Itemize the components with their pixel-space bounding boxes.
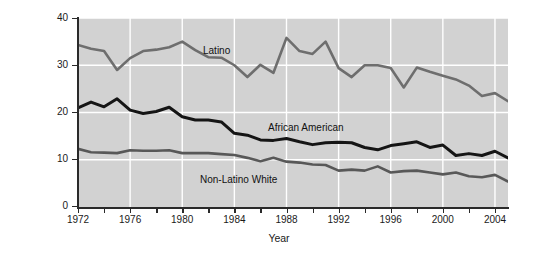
x-tick-mark	[234, 208, 235, 213]
x-tick-mark	[391, 208, 392, 213]
x-tick-label-1972: 1972	[58, 214, 98, 225]
x-tick-mark	[469, 208, 470, 213]
x-tick-mark	[417, 208, 418, 213]
x-axis-title-text: Year	[268, 232, 289, 244]
x-tick-mark	[365, 208, 366, 213]
x-tick-mark	[287, 208, 288, 213]
x-tick-mark	[130, 208, 131, 213]
x-tick-label-2000: 2000	[423, 214, 463, 225]
series-canvas	[78, 18, 508, 207]
x-tick-mark	[208, 208, 209, 213]
y-tick-label-10: 10	[46, 153, 68, 164]
x-tick-mark	[339, 208, 340, 213]
x-tick-label-1988: 1988	[267, 214, 307, 225]
y-axis-line	[77, 17, 79, 208]
x-tick-label-1976: 1976	[110, 214, 150, 225]
x-tick-mark	[495, 208, 496, 213]
x-tick-mark	[78, 208, 79, 213]
x-tick-label-1996: 1996	[371, 214, 411, 225]
x-tick-label-2004: 2004	[475, 214, 515, 225]
x-tick-mark	[182, 208, 183, 213]
x-tick-mark	[443, 208, 444, 213]
y-tick-label-20: 20	[46, 106, 68, 117]
x-tick-mark	[156, 208, 157, 213]
chart-figure: Percentage of 16- to 24-year-olds who ha…	[0, 0, 534, 254]
series-annotation-non-latino-white: Non-Latino White	[200, 174, 277, 185]
plot-area: Latino African American Non-Latino White	[78, 18, 508, 207]
x-tick-label-1980: 1980	[162, 214, 202, 225]
series-annotation-latino: Latino	[203, 45, 230, 56]
x-tick-mark	[260, 208, 261, 213]
x-axis-line	[77, 207, 509, 209]
x-tick-mark	[104, 208, 105, 213]
x-tick-label-1984: 1984	[214, 214, 254, 225]
y-tick-label-40: 40	[46, 12, 68, 23]
x-tick-label-1992: 1992	[319, 214, 359, 225]
y-tick-label-30: 30	[46, 59, 68, 70]
series-annotation-african-american: African American	[268, 122, 344, 133]
x-axis-title: Year	[0, 232, 534, 244]
y-tick-label-0: 0	[46, 200, 68, 211]
x-tick-mark	[313, 208, 314, 213]
